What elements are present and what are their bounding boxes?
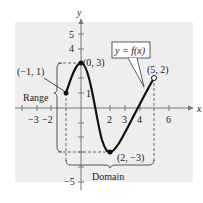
y-tick-label: 4 xyxy=(69,43,74,54)
y-tick-label: −5 xyxy=(64,176,75,187)
y-tick-label: 1 xyxy=(86,88,91,99)
x-tick-label: 4 xyxy=(137,114,142,125)
point-label-end: (5, 2) xyxy=(147,64,169,76)
x-tick-label: 3 xyxy=(122,114,127,125)
x-tick-label: 2 xyxy=(107,114,112,125)
x-axis-label: x xyxy=(196,103,202,114)
point-end-open xyxy=(152,76,157,81)
x-tick-label: 6 xyxy=(166,114,171,125)
x-tick-label: −2 xyxy=(42,114,53,125)
point-min xyxy=(108,150,113,155)
point-label-max: (0, 3) xyxy=(83,57,105,69)
y-axis-arrow-icon xyxy=(79,18,84,24)
function-graph: x y −3 −2 2 3 4 6 5 4 1 −5 xyxy=(0,0,203,203)
x-tick-label: −3 xyxy=(28,114,39,125)
y-axis-label: y xyxy=(76,7,82,18)
y-tick-label: 5 xyxy=(69,29,74,40)
domain-label: Domain xyxy=(92,171,124,182)
function-label: y = f(x) xyxy=(114,45,146,57)
point-label-start: (−1, 1) xyxy=(17,66,44,78)
range-label: Range xyxy=(23,92,49,103)
point-start xyxy=(64,91,69,96)
point-label-min: (2, −3) xyxy=(117,152,144,164)
